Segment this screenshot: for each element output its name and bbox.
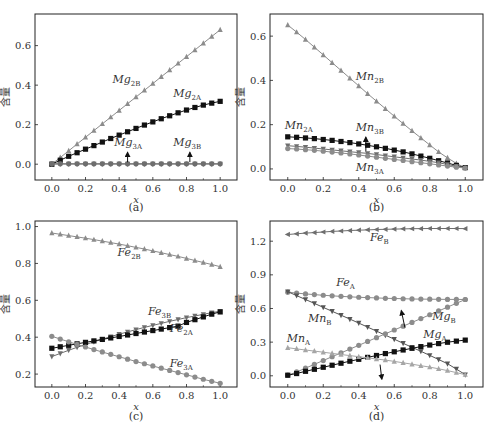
annotation-MgB: MgB xyxy=(431,310,455,325)
svg-text:Mn2A: Mn2A xyxy=(284,119,314,134)
y-axis-label: 含量 xyxy=(0,294,11,314)
y-tick-label: 0.6 xyxy=(15,40,31,51)
svg-text:Fe3A: Fe3A xyxy=(169,357,194,372)
x-tick-label: 0.2 xyxy=(315,183,331,194)
svg-text:MnB: MnB xyxy=(307,312,332,327)
annotation-MnA: MnA xyxy=(286,332,311,347)
series-FeA xyxy=(285,290,468,302)
y-tick-label: 0.0 xyxy=(15,159,31,170)
y-tick-label: 0.6 xyxy=(250,31,266,42)
annotation-FeB: FeB xyxy=(369,231,389,246)
x-tick-label: 0.6 xyxy=(145,390,161,401)
svg-text:FeA: FeA xyxy=(335,276,356,291)
x-tick-label: 0.0 xyxy=(44,183,60,194)
x-tick-label: 0.2 xyxy=(78,390,94,401)
svg-text:FeB: FeB xyxy=(369,231,389,246)
series-Fe2B xyxy=(49,230,223,269)
y-axis-label: 含量 xyxy=(234,87,246,107)
series-Mg3B xyxy=(49,162,223,167)
panel-label: (a) xyxy=(128,201,143,214)
annotation-Mg3A: Mg3A xyxy=(113,136,143,162)
x-tick-label: 0.0 xyxy=(280,183,296,194)
svg-text:Mg2B: Mg2B xyxy=(112,73,141,88)
x-tick-label: 0.0 xyxy=(280,390,296,401)
x-tick-label: 1.0 xyxy=(457,183,473,194)
annotation-Mn2B: Mn2B xyxy=(355,70,384,85)
annotation-Mn2A: Mn2A xyxy=(284,119,314,134)
svg-text:Fe3B: Fe3B xyxy=(147,305,171,320)
annotation-MnB: MnB xyxy=(307,312,332,327)
x-tick-label: 0.4 xyxy=(111,390,127,401)
x-tick-label: 0.6 xyxy=(386,390,402,401)
x-tick-label: 0.6 xyxy=(145,183,161,194)
y-tick-label: 0.3 xyxy=(250,337,266,348)
svg-text:Mg3B: Mg3B xyxy=(172,136,201,151)
y-axis-label: 含量 xyxy=(234,294,246,314)
y-tick-label: 0.4 xyxy=(250,75,266,86)
svg-text:Mg2A: Mg2A xyxy=(172,87,202,102)
figure-canvas: 0.00.20.40.60.81.00.00.20.40.6x含量(a)Mg2B… xyxy=(0,0,490,434)
annotation-MgA: MgA xyxy=(422,328,447,343)
annotation-Fe3A: Fe3A xyxy=(169,357,194,372)
x-tick-label: 0.8 xyxy=(422,390,438,401)
svg-text:Mn3A: Mn3A xyxy=(355,161,385,176)
svg-text:Fe2A: Fe2A xyxy=(169,322,194,337)
chart-panel-a: 0.00.20.40.60.81.00.00.20.40.6x含量(a)Mg2B… xyxy=(0,14,237,214)
panel-label: (c) xyxy=(129,410,144,423)
chart-panel-d: 0.00.20.40.60.81.00.00.30.60.91.2x含量(d)F… xyxy=(234,221,483,423)
annotation-arrow xyxy=(380,365,382,380)
panel-label: (b) xyxy=(369,201,385,214)
x-tick-label: 0.8 xyxy=(179,390,195,401)
x-tick-label: 0.8 xyxy=(179,183,195,194)
chart-panel-c: 0.00.20.40.60.81.00.20.40.60.81.0x含量(c)F… xyxy=(0,221,237,423)
y-tick-label: 0.2 xyxy=(250,119,266,130)
x-tick-label: 0.4 xyxy=(351,390,367,401)
svg-text:Mn3B: Mn3B xyxy=(355,121,384,136)
y-tick-label: 0.6 xyxy=(15,295,31,306)
y-axis-label: 含量 xyxy=(0,87,11,107)
svg-text:MnA: MnA xyxy=(286,332,311,347)
annotation-Mg3B: Mg3B xyxy=(172,136,201,162)
y-tick-label: 0.4 xyxy=(15,332,31,343)
x-tick-label: 1.0 xyxy=(212,183,228,194)
svg-text:MgA: MgA xyxy=(422,328,447,343)
annotation-Fe2A: Fe2A xyxy=(169,322,194,337)
y-tick-label: 0.6 xyxy=(250,303,266,314)
x-tick-label: 1.0 xyxy=(457,390,473,401)
x-tick-label: 0.2 xyxy=(315,390,331,401)
svg-text:MgB: MgB xyxy=(431,310,455,325)
svg-text:Mn2B: Mn2B xyxy=(355,70,384,85)
panel-label: (d) xyxy=(369,410,385,423)
svg-text:Mg3A: Mg3A xyxy=(113,136,143,151)
annotation-Fe3B: Fe3B xyxy=(147,305,171,320)
figure-root: 0.00.20.40.60.81.00.00.20.40.6x含量(a)Mg2B… xyxy=(0,0,490,434)
y-tick-label: 0.2 xyxy=(15,369,31,380)
axes-frame xyxy=(270,221,483,387)
y-tick-label: 0.8 xyxy=(15,258,31,269)
x-tick-label: 0.6 xyxy=(386,183,402,194)
y-tick-label: 1.2 xyxy=(250,236,266,247)
x-tick-label: 0.4 xyxy=(111,183,127,194)
y-tick-label: 0.2 xyxy=(15,119,31,130)
y-tick-label: 1.0 xyxy=(15,221,31,232)
x-tick-label: 0.0 xyxy=(44,390,60,401)
annotation-Mg2B: Mg2B xyxy=(112,73,141,88)
y-tick-label: 0.9 xyxy=(250,269,266,280)
annotation-Mn3A: Mn3A xyxy=(355,161,385,176)
x-tick-label: 0.8 xyxy=(422,183,438,194)
x-tick-label: 0.2 xyxy=(78,183,94,194)
x-tick-label: 0.4 xyxy=(351,183,367,194)
y-tick-label: 0.4 xyxy=(15,80,31,91)
x-tick-label: 1.0 xyxy=(212,390,228,401)
series-Mg2A xyxy=(49,99,223,167)
annotation-Mg2A: Mg2A xyxy=(172,87,202,102)
y-tick-label: 0.0 xyxy=(250,163,266,174)
y-tick-label: 0.0 xyxy=(250,370,266,381)
chart-panel-b: 0.00.20.40.60.81.00.00.20.40.6x含量(b)Mn2B… xyxy=(234,14,483,214)
annotation-FeA: FeA xyxy=(335,276,356,291)
